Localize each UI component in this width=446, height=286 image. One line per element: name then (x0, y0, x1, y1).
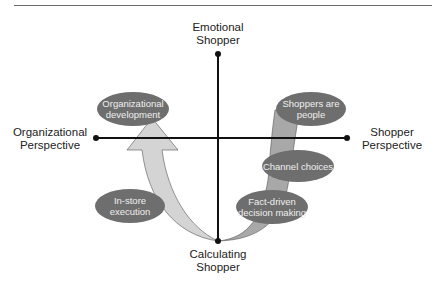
node-in-store-execution: In-storeexecution (95, 189, 165, 223)
axis-label-line: Shopper (352, 126, 432, 139)
axis-end-dot-right (344, 135, 350, 141)
axis-label-line: Organizational (5, 126, 95, 139)
node-text: Channel choices (263, 161, 333, 172)
axis-label-line: Calculating (178, 248, 258, 261)
node-organizational-development: Organizationaldevelopment (97, 92, 169, 126)
axis-end-dot-top (215, 51, 221, 57)
left-curved-arrow (127, 118, 218, 241)
axis-label-calculating-shopper: Calculating Shopper (178, 248, 258, 274)
node-text: In-store (110, 195, 151, 206)
node-channel-choices: Channel choices (262, 150, 334, 182)
axis-end-dot-bottom (215, 238, 221, 244)
node-text: development (102, 109, 163, 120)
node-text: Fact-driven (238, 196, 306, 207)
axis-label-line: Shopper (178, 261, 258, 274)
axis-label-shopper-perspective: Shopper Perspective (352, 126, 432, 152)
axis-label-line: Perspective (5, 139, 95, 152)
axis-label-line: Shopper (178, 34, 258, 47)
node-text: decision making (238, 207, 306, 218)
node-fact-driven-decision-making: Fact-drivendecision making (236, 190, 308, 224)
axis-label-organizational-perspective: Organizational Perspective (5, 126, 95, 152)
axis-label-emotional-shopper: Emotional Shopper (178, 21, 258, 47)
node-shoppers-are-people: Shoppers arepeople (276, 92, 346, 126)
node-text: execution (110, 206, 151, 217)
node-text: Organizational (102, 98, 163, 109)
node-text: people (282, 109, 339, 120)
axis-label-line: Emotional (178, 21, 258, 34)
node-text: Shoppers are (282, 98, 339, 109)
axis-label-line: Perspective (352, 139, 432, 152)
